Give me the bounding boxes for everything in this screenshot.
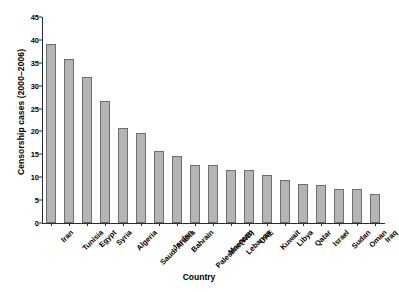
bar bbox=[352, 189, 361, 223]
x-tick-mark bbox=[51, 223, 52, 226]
x-tick-mark bbox=[321, 223, 322, 226]
x-tick-mark bbox=[375, 223, 376, 226]
x-tick-mark bbox=[339, 223, 340, 226]
x-tick-mark bbox=[123, 223, 124, 226]
bar bbox=[244, 170, 253, 223]
x-tick-mark bbox=[87, 223, 88, 226]
x-tick-mark bbox=[285, 223, 286, 226]
x-tick-mark bbox=[231, 223, 232, 226]
bar bbox=[172, 156, 181, 223]
y-tick-label: 35 bbox=[31, 58, 39, 67]
y-axis-title: Censorship cases (2000–2006) bbox=[14, 0, 28, 224]
x-tick-mark bbox=[141, 223, 142, 226]
x-tick-label-text: Syria bbox=[114, 228, 133, 247]
bar bbox=[280, 180, 289, 223]
bar bbox=[334, 189, 343, 223]
bar bbox=[64, 59, 73, 223]
x-tick-label: Iran bbox=[59, 228, 75, 244]
x-tick-mark bbox=[177, 223, 178, 226]
bar bbox=[190, 165, 199, 223]
x-tick-label-text: Qatar bbox=[313, 228, 333, 248]
x-axis-title: Country bbox=[0, 272, 398, 282]
x-tick-label: Qatar bbox=[313, 228, 333, 248]
bar bbox=[118, 128, 127, 223]
x-tick-mark bbox=[267, 223, 268, 226]
bar bbox=[262, 175, 271, 223]
y-tick-label: 10 bbox=[31, 173, 39, 182]
bar bbox=[316, 185, 325, 223]
y-tick-label: 15 bbox=[31, 150, 39, 159]
bar bbox=[100, 101, 109, 223]
bar bbox=[82, 77, 91, 223]
bar bbox=[298, 184, 307, 223]
bar bbox=[154, 151, 163, 223]
y-tick-label: 45 bbox=[31, 13, 39, 22]
x-tick-mark bbox=[249, 223, 250, 226]
x-tick-label: Syria bbox=[114, 228, 133, 247]
y-tick-label: 20 bbox=[31, 127, 39, 136]
x-tick-mark bbox=[357, 223, 358, 226]
x-tick-label-text: Sudan bbox=[350, 228, 373, 251]
x-tick-label-text: Iran bbox=[59, 228, 75, 244]
x-tick-label: Algeria bbox=[134, 228, 158, 252]
x-tick-mark bbox=[69, 223, 70, 226]
x-tick-label-text: Algeria bbox=[134, 228, 158, 252]
y-tick-label: 30 bbox=[31, 81, 39, 90]
bar bbox=[370, 194, 379, 223]
x-tick-label-text: Israel bbox=[331, 228, 351, 248]
x-tick-mark bbox=[105, 223, 106, 226]
x-tick-label: Israel bbox=[331, 228, 351, 248]
y-tick-label: 25 bbox=[31, 104, 39, 113]
plot-area: 051015202530354045 bbox=[42, 17, 384, 223]
bar bbox=[136, 133, 145, 223]
x-tick-label: Sudan bbox=[350, 228, 373, 251]
x-tick-mark bbox=[213, 223, 214, 226]
bar bbox=[46, 44, 55, 223]
x-tick-mark bbox=[159, 223, 160, 226]
x-tick-mark bbox=[303, 223, 304, 226]
y-tick-label: 40 bbox=[31, 35, 39, 44]
x-tick-mark bbox=[195, 223, 196, 226]
bar-series bbox=[42, 17, 384, 223]
bar bbox=[226, 170, 235, 223]
bar bbox=[208, 165, 217, 223]
